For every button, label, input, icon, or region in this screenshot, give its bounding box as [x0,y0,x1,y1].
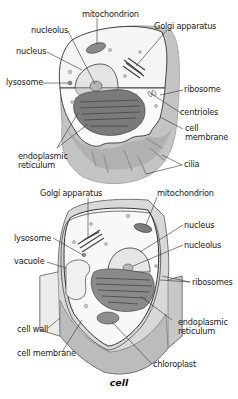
label-plant-cell-membrane: cell membrane [17,349,76,358]
label-animal-centrioles: centrioles [180,108,218,117]
label-plant-vacuole: vacuole [14,257,44,266]
label-animal-golgi-apparatus: Golgi apparatus [154,22,216,31]
label-animal-lysosome: lysosome [6,78,43,87]
label-animal-nucleolus: nucleolus [31,26,68,35]
label-animal-mitochondrion: mitochondrion [82,10,139,19]
cell-diagram [0,0,238,399]
label-plant-cell-wall: cell wall [17,325,48,334]
label-plant-chloroplast: chloroplast [153,360,196,369]
label-plant-lysosome: lysosome [14,234,51,243]
animal-nucleolus [90,81,102,91]
label-animal-ribosome: ribosome [184,85,221,94]
label-plant-er-line2: reticulum [178,327,215,336]
label-plant-nucleolus: nucleolus [184,241,221,250]
label-animal-nucleus: nucleus [16,47,46,56]
label-animal-cell-membrane-line2: membrane [185,133,228,142]
label-plant-nucleus: nucleus [184,221,214,230]
label-animal-cilia: cilia [184,160,199,169]
plant-chloroplast [97,312,119,324]
label-animal-er-line2: reticulum [18,161,55,170]
animal-lysosome [68,81,72,85]
label-plant-mitochondrion: mitochondrion [157,189,214,198]
plant-cell-wall-side-right [168,276,182,348]
label-plant-ribosomes: ribosomes [192,278,233,287]
label-plant-golgi-apparatus: Golgi apparatus [40,189,102,198]
figure-caption: cell [0,377,238,388]
